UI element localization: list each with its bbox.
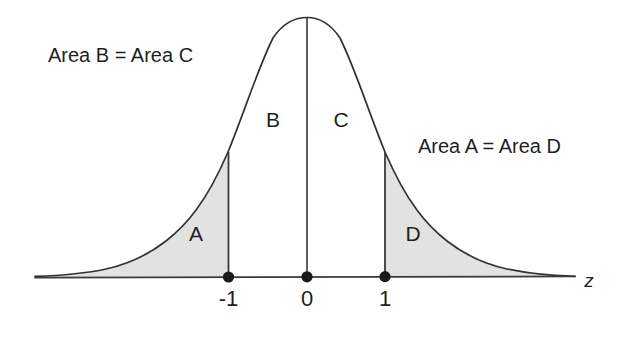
- axis-label-z: z: [583, 270, 594, 291]
- region-label-a: A: [189, 222, 203, 245]
- tick-dot-minus-one: [223, 271, 234, 282]
- tick-label-minus-one: -1: [219, 286, 239, 311]
- region-label-c: C: [333, 108, 348, 131]
- annotation-area-a-equals-d: Area A = Area D: [418, 135, 561, 157]
- tick-dot-plus-one: [379, 271, 390, 282]
- tick-label-plus-one: 1: [379, 286, 391, 311]
- region-label-b: B: [266, 108, 280, 131]
- tick-dot-zero: [301, 271, 312, 282]
- shaded-region-a: [35, 152, 228, 277]
- distribution-diagram: -1 0 1 z A B C D Area B = Area C Area A …: [0, 0, 623, 337]
- annotation-area-b-equals-c: Area B = Area C: [48, 44, 193, 66]
- shaded-region-d: [385, 152, 575, 277]
- tick-label-zero: 0: [301, 286, 313, 311]
- region-label-d: D: [405, 222, 420, 245]
